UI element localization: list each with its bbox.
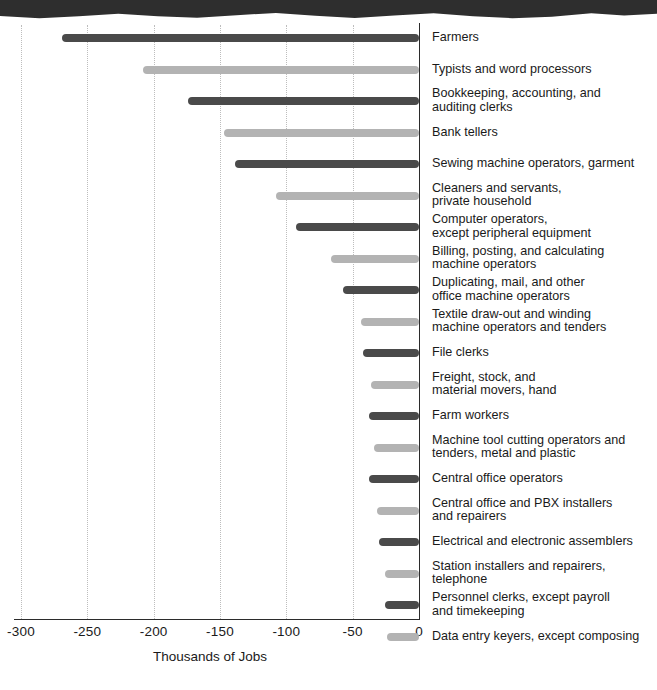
- bar: [385, 570, 419, 578]
- gridline--300: [21, 25, 22, 619]
- bar: [224, 129, 419, 137]
- category-label: Bookkeeping, accounting, and auditing cl…: [432, 87, 654, 114]
- bar: [385, 601, 419, 609]
- bar: [276, 192, 419, 200]
- bar: [235, 160, 419, 168]
- bar: [343, 286, 419, 294]
- bar: [62, 34, 419, 42]
- category-label: Bank tellers: [432, 126, 654, 140]
- x-tick-label--150: -150: [206, 624, 234, 639]
- bar: [143, 66, 419, 74]
- category-label: Sewing machine operators, garment: [432, 157, 654, 171]
- bar: [361, 318, 419, 326]
- category-label: Electrical and electronic assemblers: [432, 535, 654, 549]
- category-label: Central office and PBX installers and re…: [432, 497, 654, 524]
- gridline--200: [154, 25, 155, 619]
- x-tick-label--300: -300: [7, 624, 35, 639]
- x-axis-line: [14, 619, 420, 620]
- category-label: Freight, stock, and material movers, han…: [432, 371, 654, 398]
- bar: [188, 97, 419, 105]
- zero-axis-line: [419, 23, 420, 619]
- gridline--150: [220, 25, 221, 619]
- bar: [377, 507, 419, 515]
- category-label: Station installers and repairers, teleph…: [432, 560, 654, 587]
- category-label: Farm workers: [432, 409, 654, 423]
- gridline--250: [87, 25, 88, 619]
- bar: [374, 444, 419, 452]
- bar: [371, 381, 419, 389]
- x-tick-label--50: -50: [343, 624, 363, 639]
- bar: [363, 349, 419, 357]
- category-label: Machine tool cutting operators and tende…: [432, 434, 654, 461]
- category-label: Computer operators, except peripheral eq…: [432, 213, 654, 240]
- bar: [387, 633, 419, 641]
- bar: [369, 412, 419, 420]
- category-label: Typists and word processors: [432, 63, 654, 77]
- x-tick-label--250: -250: [73, 624, 101, 639]
- gridline--50: [353, 25, 354, 619]
- scan-artifact-band: [0, 0, 657, 19]
- category-label: Personnel clerks, except payroll and tim…: [432, 591, 654, 618]
- bar: [331, 255, 419, 263]
- category-label: Textile draw-out and winding machine ope…: [432, 308, 654, 335]
- horizontal-bar-chart: -300-250-200-150-100-500 FarmersTypists …: [0, 19, 657, 690]
- category-label: Central office operators: [432, 472, 654, 486]
- category-label: Data entry keyers, except composing: [432, 630, 654, 644]
- category-label: Farmers: [432, 31, 654, 45]
- gridline--100: [286, 25, 287, 619]
- x-tick-label--100: -100: [272, 624, 300, 639]
- x-tick-label--200: -200: [140, 624, 168, 639]
- bar: [296, 223, 419, 231]
- bar: [369, 475, 419, 483]
- category-label: Duplicating, mail, and other office mach…: [432, 276, 654, 303]
- x-axis-title: Thousands of Jobs: [0, 649, 420, 664]
- category-label: Billing, posting, and calculating machin…: [432, 245, 654, 272]
- category-label: File clerks: [432, 346, 654, 360]
- category-label: Cleaners and servants, private household: [432, 182, 654, 209]
- bar: [379, 538, 419, 546]
